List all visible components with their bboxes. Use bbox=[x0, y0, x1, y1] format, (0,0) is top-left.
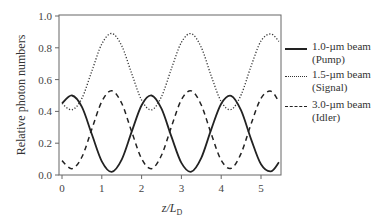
legend-solid-line-icon bbox=[285, 48, 307, 50]
y-tick-label: 0.0 bbox=[38, 169, 52, 181]
x-axis-title: z/LD bbox=[161, 201, 183, 217]
legend-item-signal: 1.5-µm beam (Signal) bbox=[312, 68, 371, 94]
legend-sublabel: (Signal) bbox=[312, 81, 371, 94]
x-tick-label: 0 bbox=[59, 182, 65, 194]
y-axis-title: Relative photon numbers bbox=[14, 34, 28, 155]
y-tick-label: 0.8 bbox=[38, 42, 52, 54]
x-axis-ticks: 012345 bbox=[59, 175, 264, 194]
legend-sublabel: (Pump) bbox=[312, 53, 371, 66]
y-tick-label: 0.2 bbox=[38, 137, 52, 149]
x-tick-label: 3 bbox=[179, 182, 185, 194]
legend-item-pump: 1.0-µm beam (Pump) bbox=[312, 40, 371, 66]
legend-item-idler: 3.0-µm beam (Idler) bbox=[312, 98, 371, 124]
legend-dashed-line-icon bbox=[285, 106, 307, 107]
legend-sublabel: (Idler) bbox=[312, 111, 371, 124]
y-tick-label: 1.0 bbox=[38, 10, 52, 22]
series-line-dashed bbox=[62, 91, 279, 169]
y-axis-ticks: 0.00.20.40.60.81.0 bbox=[38, 10, 59, 181]
series-line-dotted bbox=[62, 33, 279, 109]
x-tick-label: 5 bbox=[258, 182, 264, 194]
y-tick-label: 0.4 bbox=[38, 105, 52, 117]
x-tick-label: 4 bbox=[218, 182, 224, 194]
x-tick-label: 1 bbox=[99, 182, 105, 194]
legend-dotted-line-icon bbox=[285, 76, 307, 77]
legend-label: 3.0-µm beam bbox=[312, 98, 371, 111]
legend-label: 1.5-µm beam bbox=[312, 68, 371, 81]
series-line-solid bbox=[62, 95, 279, 171]
x-tick-label: 2 bbox=[139, 182, 145, 194]
legend-label: 1.0-µm beam bbox=[312, 40, 371, 53]
y-tick-label: 0.6 bbox=[38, 74, 52, 86]
series-group bbox=[62, 33, 279, 171]
plot-frame bbox=[59, 15, 281, 175]
